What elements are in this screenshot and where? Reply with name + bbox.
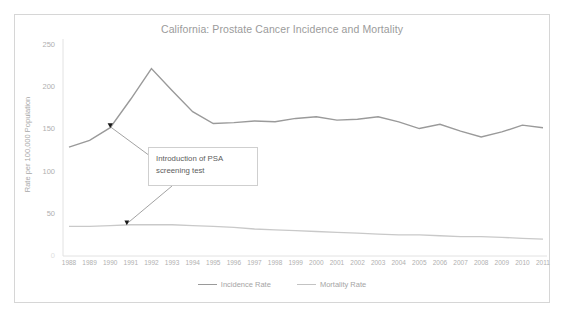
chart-container: California: Prostate Cancer Incidence an… [14, 14, 550, 303]
axis-lines [63, 39, 547, 256]
series-line-incidence-rate [69, 69, 543, 147]
chart-legend: Incidence RateMortality Rate [15, 280, 549, 289]
annotation-callout: Introduction of PSA screening test [148, 147, 258, 186]
plot-area [15, 15, 551, 304]
legend-label: Mortality Rate [320, 280, 366, 289]
legend-label: Incidence Rate [221, 280, 271, 289]
legend-entry-mortality-rate[interactable]: Mortality Rate [297, 280, 366, 289]
legend-swatch-icon [198, 284, 217, 286]
series-line-mortality-rate [69, 225, 543, 239]
legend-swatch-icon [297, 284, 316, 286]
legend-entry-incidence-rate[interactable]: Incidence Rate [198, 280, 271, 289]
annotation-text-line-2: screening test [156, 165, 250, 177]
annotation-text-line-1: Introduction of PSA [156, 153, 250, 165]
